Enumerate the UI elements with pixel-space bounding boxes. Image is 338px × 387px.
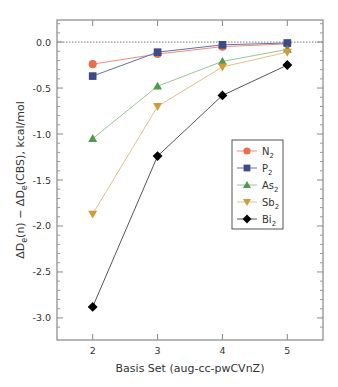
y-tick-label: -1.0 (32, 129, 51, 140)
diamond-marker (282, 60, 292, 70)
x-axis-title: Basis Set (aug-cc-pwCVnZ) (116, 362, 265, 375)
circle-marker (89, 60, 97, 68)
y-tick-label: -2.5 (32, 266, 51, 277)
triangle-up-marker (88, 134, 97, 142)
line-chart-svg: 2345 0.0-0.5-1.0-1.5-2.0-2.5-3.0 N2P2As2… (0, 0, 338, 387)
chart: 2345 0.0-0.5-1.0-1.5-2.0-2.5-3.0 N2P2As2… (0, 0, 338, 387)
triangle-down-marker (153, 103, 162, 111)
diamond-marker (88, 302, 98, 312)
triangle-up-marker (153, 82, 162, 90)
y-axis-title: ΔDe(n) − ΔDe(CBS), kcal/mol (14, 101, 29, 259)
y-tick-label: -0.5 (32, 83, 51, 94)
x-tick-label: 2 (90, 345, 96, 356)
y-tick-label: -3.0 (32, 312, 51, 323)
series-as2 (88, 45, 292, 142)
y-tick-label: -2.0 (32, 220, 51, 231)
x-tick-label: 4 (219, 345, 225, 356)
square-marker (244, 165, 251, 172)
circle-marker (243, 147, 250, 154)
square-marker (219, 41, 227, 49)
x-tick-label: 3 (155, 345, 161, 356)
y-tick-label: 0.0 (36, 37, 51, 48)
square-marker (89, 72, 97, 80)
series-line (93, 44, 288, 64)
triangle-down-marker (88, 211, 97, 219)
square-marker (154, 48, 162, 56)
y-axis-title-text: ΔDe(n) − ΔDe(CBS), kcal/mol (14, 101, 29, 259)
legend: N2P2As2Sb2Bi2 (232, 140, 283, 229)
triangle-down-marker (218, 64, 227, 72)
y-tick-label: -1.5 (32, 175, 51, 186)
x-tick-label: 5 (284, 345, 290, 356)
